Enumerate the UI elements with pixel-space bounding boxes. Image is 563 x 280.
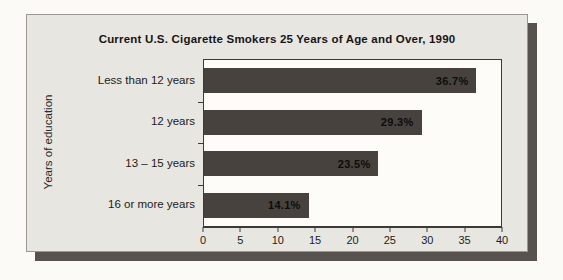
y-axis-tick-mark — [198, 185, 204, 186]
x-axis-tick-mark — [315, 227, 316, 232]
chart-title: Current U.S. Cigarette Smokers 25 Years … — [27, 33, 527, 45]
x-axis-tick-label: 10 — [272, 234, 284, 246]
x-axis-tick-label: 40 — [496, 234, 508, 246]
category-label: 16 or more years — [27, 184, 195, 226]
category-label: Less than 12 years — [27, 59, 195, 101]
bar-row: 29.3% — [204, 102, 501, 144]
x-axis-tick-mark — [240, 227, 241, 232]
bar-value-label: 29.3% — [381, 116, 422, 128]
x-axis-tick-mark — [277, 227, 278, 232]
page: Current U.S. Cigarette Smokers 25 Years … — [0, 0, 563, 280]
x-axis-tick-label: 5 — [237, 234, 243, 246]
bar-row: 14.1% — [204, 185, 501, 227]
x-axis-tick-mark — [502, 227, 503, 232]
bar: 14.1% — [204, 193, 309, 218]
category-labels: Less than 12 years12 years13 – 15 years1… — [27, 59, 195, 225]
bar-row: 23.5% — [204, 143, 501, 185]
x-axis-tick-mark — [389, 227, 390, 232]
x-axis-tick-label: 30 — [421, 234, 433, 246]
x-axis-tick-mark — [464, 227, 465, 232]
bar-value-label: 36.7% — [436, 75, 477, 87]
x-axis-tick-mark — [203, 227, 204, 232]
y-axis-tick-mark — [198, 143, 204, 144]
y-axis-tick-mark — [198, 102, 204, 103]
x-axis-tick-mark — [352, 227, 353, 232]
x-axis-tick-label: 25 — [384, 234, 396, 246]
bar-row: 36.7% — [204, 60, 501, 102]
category-label: 12 years — [27, 101, 195, 143]
bar: 29.3% — [204, 110, 422, 135]
bar: 36.7% — [204, 68, 476, 93]
category-label: 13 – 15 years — [27, 142, 195, 184]
x-axis-tick-label: 0 — [200, 234, 206, 246]
x-axis-tick-label: 35 — [459, 234, 471, 246]
bar-value-label: 14.1% — [268, 199, 309, 211]
x-axis-tick-label: 15 — [309, 234, 321, 246]
plot-area: 36.7%29.3%23.5%14.1% — [203, 59, 502, 228]
x-axis-tick-label: 20 — [346, 234, 358, 246]
x-axis: 0510152025303540 — [203, 227, 502, 251]
bar-value-label: 23.5% — [338, 158, 379, 170]
chart-card: Current U.S. Cigarette Smokers 25 Years … — [26, 14, 528, 252]
x-axis-tick-mark — [427, 227, 428, 232]
bar: 23.5% — [204, 151, 378, 176]
